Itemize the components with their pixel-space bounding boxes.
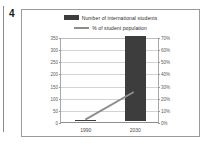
y-axis-left-tick-label: 200 — [50, 72, 58, 77]
page-edge-rule — [3, 6, 4, 132]
x-axis-tick-label-2030: 2030 — [130, 127, 141, 133]
y-axis-right-tick-label: 20% — [161, 96, 170, 101]
x-axis-tick-label-1990: 1990 — [80, 127, 91, 133]
y-axis-right-tick-label: 0% — [161, 121, 168, 126]
line-path — [85, 92, 134, 120]
y-axis-right-tick-label: 40% — [161, 72, 170, 77]
y-axis-right-tick-mark — [158, 111, 160, 112]
y-axis-left-tick-label: 150 — [50, 84, 58, 89]
y-axis-right-tick-label: 70% — [161, 36, 170, 41]
y-axis-right-tick-mark — [158, 50, 160, 51]
y-axis-right-tick-label: 10% — [161, 108, 170, 113]
y-axis-right-tick-mark — [158, 123, 160, 124]
chart-frame: Number of international students % of st… — [21, 9, 200, 137]
y-axis-right-tick-mark — [158, 62, 160, 63]
y-axis-right-tick-mark — [158, 87, 160, 88]
y-axis-left-tick-label: 350 — [50, 36, 58, 41]
y-axis-right-tick-label: 50% — [161, 60, 170, 65]
y-axis-right-tick-label: 30% — [161, 84, 170, 89]
y-axis-left-tick-label: 300 — [50, 48, 58, 53]
y-axis-right-tick-mark — [158, 74, 160, 75]
plot-wrapper: 050100150200250300350 0%10%20%30%40%50%6… — [22, 10, 199, 136]
y-axis-left-tick-label: 250 — [50, 60, 58, 65]
figure-container: 4 Number of international students % of … — [0, 0, 205, 146]
y-axis-right-tick-label: 60% — [161, 48, 170, 53]
y-axis-left-tick-mark — [59, 123, 61, 124]
y-axis-right-tick-mark — [158, 99, 160, 100]
figure-number-label: 4 — [9, 8, 15, 19]
plot-area: 050100150200250300350 0%10%20%30%40%50%6… — [60, 38, 159, 123]
y-axis-right-tick-mark — [158, 38, 160, 39]
y-axis-left-tick-label: 0 — [55, 121, 58, 126]
y-axis-left-tick-label: 50 — [53, 108, 58, 113]
y-axis-left-tick-label: 100 — [50, 96, 58, 101]
line-series-percent-of-student-population — [61, 38, 158, 122]
